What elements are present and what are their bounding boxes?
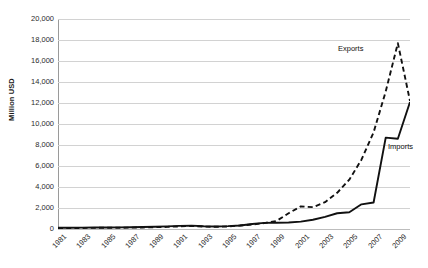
- x-axis-tick-label: 1987: [115, 232, 141, 258]
- x-axis-tick-label: 1991: [164, 232, 190, 258]
- series-label-imports: Imports: [388, 142, 413, 151]
- y-axis-tick-label: 20,000: [12, 15, 54, 23]
- y-axis-tick-label: 12,000: [12, 99, 54, 107]
- series-line-exports: [58, 43, 410, 228]
- x-axis-tick-label: 1985: [91, 232, 117, 258]
- x-axis-tick-label: 2007: [358, 232, 384, 258]
- x-axis-tick-label: 1983: [66, 232, 92, 258]
- line-chart: Million USD 02,0004,0006,0008,00010,0001…: [0, 0, 428, 268]
- series-label-exports: Exports: [338, 44, 363, 53]
- y-axis-tick-labels: 02,0004,0006,0008,00010,00012,00014,0001…: [8, 0, 54, 268]
- y-axis-tick-label: 4,000: [12, 183, 54, 191]
- y-axis-tick-label: 16,000: [12, 57, 54, 65]
- y-axis-tick-label: 14,000: [12, 78, 54, 86]
- x-axis-tick-label: 2001: [285, 232, 311, 258]
- x-axis-tick-label: 2003: [309, 232, 335, 258]
- series-line-imports: [58, 102, 410, 228]
- x-axis-tick-label: 2005: [333, 232, 359, 258]
- x-axis-tick-label: 1997: [236, 232, 262, 258]
- x-axis-tick-label: 1993: [188, 232, 214, 258]
- x-axis-tick-labels: 1981198319851987198919911993199519971999…: [58, 232, 410, 268]
- y-axis-tick-label: 6,000: [12, 162, 54, 170]
- y-axis-tick-label: 0: [12, 225, 54, 233]
- y-axis-tick-label: 10,000: [12, 120, 54, 128]
- y-axis-tick-label: 8,000: [12, 141, 54, 149]
- y-axis-tick-label: 18,000: [12, 36, 54, 44]
- x-axis-tick-label: 1999: [261, 232, 287, 258]
- gridline: [58, 229, 410, 230]
- x-axis-tick-label: 1989: [139, 232, 165, 258]
- x-axis-tick-label: 1995: [212, 232, 238, 258]
- y-axis-tick-label: 2,000: [12, 204, 54, 212]
- x-axis-tick-label: 2009: [382, 232, 408, 258]
